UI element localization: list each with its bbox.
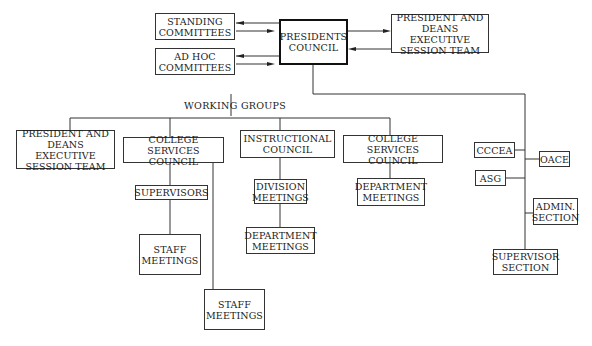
admin-section-label: ADMIN. SECTION (532, 201, 580, 223)
cccea-label: CCCEA (476, 145, 512, 156)
instructional-council-label: INSTRUCTIONAL COUNCIL (244, 133, 332, 155)
college-services-council-2-label: COLLEGE SERVICES COUNCIL (344, 133, 442, 166)
oace-box: OACE (539, 151, 570, 167)
staff-meetings-1-box: STAFF MEETINGS (139, 234, 201, 275)
staff-meetings-2-label: STAFF MEETINGS (206, 299, 263, 321)
president-deans-wg-label: PRESIDENT AND DEANS EXECUTIVE SESSION TE… (17, 128, 114, 172)
college-services-council-2-box: COLLEGE SERVICES COUNCIL (343, 135, 443, 163)
cccea-box: CCCEA (474, 142, 515, 158)
arrow-left-icon (236, 21, 244, 25)
department-meetings-2-box: DEPARTMENT MEETINGS (357, 178, 425, 206)
staff-meetings-1-label: STAFF MEETINGS (142, 244, 199, 266)
president-deans-top-label: PRESIDENT AND DEANS EXECUTIVE SESSION TE… (392, 12, 488, 56)
presidents-council-box: PRESIDENTS COUNCIL (279, 19, 348, 65)
standing-committees-box: STANDING COMMITTEES (155, 13, 235, 40)
college-services-council-1-box: COLLEGE SERVICES COUNCIL (123, 137, 224, 163)
working-groups-label: WORKING GROUPS (184, 100, 286, 111)
college-services-council-1-label: COLLEGE SERVICES COUNCIL (124, 134, 223, 167)
asg-box: ASG (475, 170, 506, 186)
department-meetings-2-label: DEPARTMENT MEETINGS (355, 181, 428, 203)
department-meetings-1-box: DEPARTMENT MEETINGS (246, 227, 315, 254)
arrow-right-icon (267, 29, 275, 33)
arrow-right-icon (383, 29, 391, 33)
ad-hoc-committees-box: AD HOC COMMITTEES (155, 48, 235, 75)
supervisor-section-label: SUPERVISOR SECTION (492, 251, 560, 273)
oace-label: OACE (540, 154, 569, 165)
instructional-council-box: INSTRUCTIONAL COUNCIL (240, 130, 335, 158)
presidents-council-label: PRESIDENTS COUNCIL (280, 31, 347, 53)
president-deans-wg-box: PRESIDENT AND DEANS EXECUTIVE SESSION TE… (16, 130, 115, 169)
division-meetings-box: DIVISION MEETINGS (254, 179, 307, 204)
supervisors-label: SUPERVISORS (134, 187, 208, 198)
supervisors-box: SUPERVISORS (135, 185, 208, 200)
president-deans-top-box: PRESIDENT AND DEANS EXECUTIVE SESSION TE… (391, 14, 489, 53)
staff-meetings-2-box: STAFF MEETINGS (204, 289, 265, 330)
arrow-left-icon (348, 47, 356, 51)
admin-section-box: ADMIN. SECTION (533, 198, 578, 225)
department-meetings-1-label: DEPARTMENT MEETINGS (244, 230, 317, 252)
arrow-right-icon (267, 62, 275, 66)
division-meetings-label: DIVISION MEETINGS (252, 181, 309, 203)
arrow-left-icon (236, 54, 244, 58)
ad-hoc-committees-label: AD HOC COMMITTEES (159, 51, 232, 73)
asg-label: ASG (480, 173, 501, 184)
supervisor-section-box: SUPERVISOR SECTION (493, 249, 558, 275)
standing-committees-label: STANDING COMMITTEES (159, 16, 232, 38)
